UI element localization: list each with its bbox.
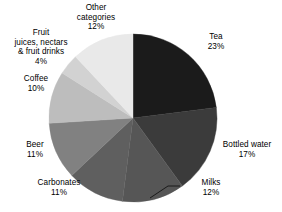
- slice-label-fruit-juices: Fruit juices, nectars & fruit drinks 4%: [2, 28, 80, 67]
- slice-label-milks: Milks 12%: [182, 178, 240, 197]
- slice-label-bottled-water: Bottled water 17%: [213, 140, 281, 159]
- slice-label-tea: Tea 23%: [192, 32, 240, 51]
- slice-label-beer: Beer 11%: [6, 140, 64, 159]
- slice-label-carbonates: Carbonates 11%: [22, 178, 96, 197]
- pie-chart: Other categories 12% Fruit juices, necta…: [0, 0, 282, 212]
- slice-label-coffee: Coffee 10%: [6, 74, 66, 93]
